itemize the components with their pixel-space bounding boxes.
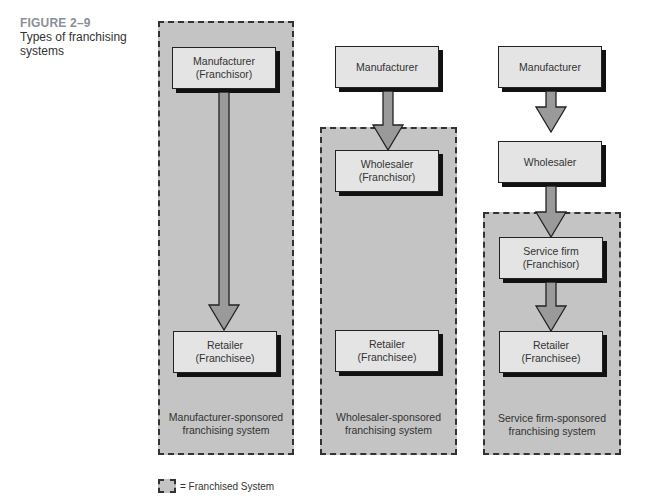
- node-wholesaler-franchisor: Wholesaler (Franchisor): [335, 150, 439, 192]
- node-label: Manufacturer: [193, 55, 255, 68]
- system-label: Service firm-sponsored franchising syste…: [485, 412, 619, 438]
- figure-title-line2: systems: [20, 44, 150, 58]
- node-label: Wholesaler: [524, 156, 577, 169]
- figure-number: FIGURE 2–9: [20, 16, 150, 30]
- system-label-line1: Manufacturer-sponsored: [160, 411, 292, 424]
- node-sublabel: (Franchisee): [196, 352, 255, 365]
- node-label: Service firm: [523, 245, 578, 258]
- down-arrow-icon: [534, 91, 568, 133]
- system-label: Manufacturer-sponsored franchising syste…: [160, 411, 292, 437]
- node-label: Manufacturer: [519, 61, 581, 74]
- down-arrow-icon: [371, 91, 405, 151]
- node-label: Manufacturer: [356, 61, 418, 74]
- system-label-line1: Wholesaler-sponsored: [322, 411, 455, 424]
- node-label: Retailer: [533, 339, 569, 352]
- down-arrow-icon: [207, 92, 241, 331]
- node-sublabel: (Franchisor): [196, 68, 253, 81]
- legend-label: = Franchised System: [180, 481, 274, 492]
- node-label: Retailer: [207, 339, 243, 352]
- legend: = Franchised System: [158, 479, 274, 493]
- node-sublabel: (Franchisor): [359, 171, 416, 184]
- figure-caption: FIGURE 2–9 Types of franchising systems: [20, 16, 150, 58]
- node-label: Wholesaler: [361, 158, 414, 171]
- node-service-firm-franchisor: Service firm (Franchisor): [499, 237, 603, 279]
- node-manufacturer: Manufacturer: [498, 46, 602, 88]
- node-manufacturer: Manufacturer: [335, 46, 439, 88]
- node-sublabel: (Franchisee): [358, 351, 417, 364]
- system-label-line2: franchising system: [160, 424, 292, 437]
- node-wholesaler: Wholesaler: [498, 141, 602, 183]
- node-retailer-franchisee: Retailer (Franchisee): [335, 330, 439, 372]
- node-retailer-franchisee: Retailer (Franchisee): [173, 331, 277, 373]
- node-sublabel: (Franchisee): [522, 352, 581, 365]
- system-label: Wholesaler-sponsored franchising system: [322, 411, 455, 437]
- node-retailer-franchisee: Retailer (Franchisee): [499, 331, 603, 373]
- system-label-line2: franchising system: [322, 424, 455, 437]
- down-arrow-icon: [534, 186, 568, 238]
- down-arrow-icon: [534, 282, 568, 332]
- figure-title-line1: Types of franchising: [20, 30, 150, 44]
- system-label-line2: franchising system: [485, 425, 619, 438]
- dashed-box-icon: [158, 479, 176, 493]
- system-label-line1: Service firm-sponsored: [485, 412, 619, 425]
- node-label: Retailer: [369, 338, 405, 351]
- node-sublabel: (Franchisor): [523, 258, 580, 271]
- node-manufacturer-franchisor: Manufacturer (Franchisor): [172, 47, 276, 89]
